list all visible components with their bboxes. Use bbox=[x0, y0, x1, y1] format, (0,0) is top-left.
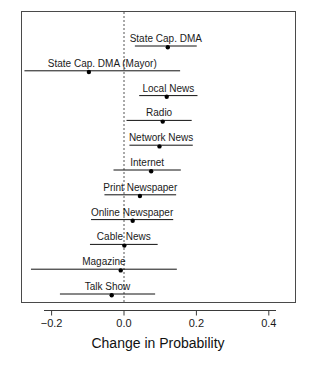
point-estimate-marker bbox=[138, 194, 142, 198]
coefficient-row-label: Cable News bbox=[97, 231, 151, 242]
coefficient-row-label: State Cap. DMA (Mayor) bbox=[48, 58, 157, 69]
point-estimate-marker bbox=[149, 169, 153, 173]
point-estimate-marker bbox=[130, 219, 134, 223]
x-axis-tick-label: 0.2 bbox=[189, 317, 204, 329]
point-estimate-marker bbox=[119, 268, 123, 272]
coefficient-row-label: Local News bbox=[142, 83, 194, 94]
coefficient-row-label: Internet bbox=[130, 157, 164, 168]
point-estimate-marker bbox=[87, 70, 91, 74]
coefficient-row-label: Print Newspaper bbox=[103, 182, 178, 193]
coefficient-row-label: Online Newspaper bbox=[91, 207, 174, 218]
point-estimate-marker bbox=[122, 243, 126, 247]
coefficient-row-label: Talk Show bbox=[85, 281, 131, 292]
coefficient-row-label: Radio bbox=[146, 107, 173, 118]
x-axis-tick-label: 0.0 bbox=[116, 317, 131, 329]
coefficient-row-label: State Cap. DMA bbox=[130, 33, 203, 44]
plot-canvas: State Cap. DMAState Cap. DMA (Mayor)Loca… bbox=[0, 0, 310, 366]
point-estimate-marker bbox=[166, 45, 170, 49]
x-axis-tick-label: 0.4 bbox=[261, 317, 276, 329]
coefficient-row-label: Magazine bbox=[82, 256, 126, 267]
point-estimate-marker bbox=[165, 95, 169, 99]
point-estimate-marker bbox=[157, 144, 161, 148]
point-estimate-marker bbox=[109, 293, 113, 297]
x-axis-title: Change in Probability bbox=[91, 335, 224, 351]
point-estimate-marker bbox=[161, 119, 165, 123]
coefficient-row-label: Network News bbox=[129, 132, 193, 143]
coefficient-plot-figure: State Cap. DMAState Cap. DMA (Mayor)Loca… bbox=[0, 0, 310, 366]
x-axis-tick-label: −0.2 bbox=[41, 317, 63, 329]
